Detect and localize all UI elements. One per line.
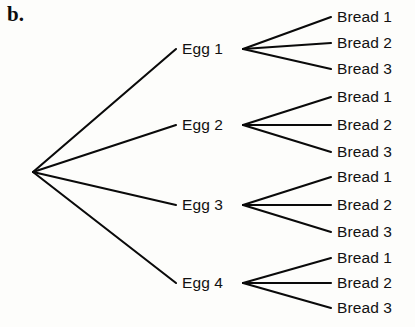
leaf-branch-2-3 bbox=[243, 125, 331, 152]
bread-leaf-label-4-3: Bread 3 bbox=[337, 300, 392, 316]
leaf-branch-4-3 bbox=[243, 283, 331, 308]
bread-leaf-label-3-2: Bread 2 bbox=[337, 197, 392, 213]
tree-diagram-canvas: b. Egg 1Egg 2Egg 3Egg 4 Bread 1Bread 2Br… bbox=[0, 0, 415, 327]
leaf-branch-3-1 bbox=[243, 177, 331, 205]
egg-node-label-2: Egg 2 bbox=[182, 117, 223, 133]
leaf-branch-4-1 bbox=[243, 258, 331, 283]
bread-leaf-label-1-3: Bread 3 bbox=[337, 61, 392, 77]
bread-leaf-label-2-2: Bread 2 bbox=[337, 117, 392, 133]
egg-node-label-1: Egg 1 bbox=[182, 41, 223, 57]
leaf-branch-3-3 bbox=[243, 205, 331, 232]
bread-leaf-label-3-3: Bread 3 bbox=[337, 224, 392, 240]
bread-leaf-label-2-1: Bread 1 bbox=[337, 89, 392, 105]
leaf-branch-2-1 bbox=[243, 97, 331, 125]
bread-leaf-label-2-3: Bread 3 bbox=[337, 144, 392, 160]
bread-leaf-label-1-2: Bread 2 bbox=[337, 35, 392, 51]
egg-node-label-3: Egg 3 bbox=[182, 197, 223, 213]
trunk-branch-2 bbox=[33, 125, 176, 172]
bread-leaf-label-3-1: Bread 1 bbox=[337, 169, 392, 185]
trunk-branch-group bbox=[33, 49, 176, 283]
bread-leaf-label-4-2: Bread 2 bbox=[337, 275, 392, 291]
egg-node-label-4: Egg 4 bbox=[182, 275, 223, 291]
trunk-branch-1 bbox=[33, 49, 176, 172]
leaf-branch-group bbox=[243, 17, 331, 308]
leaf-branch-1-3 bbox=[243, 49, 331, 69]
bread-leaf-label-4-1: Bread 1 bbox=[337, 250, 392, 266]
bread-leaf-label-1-1: Bread 1 bbox=[337, 9, 392, 25]
